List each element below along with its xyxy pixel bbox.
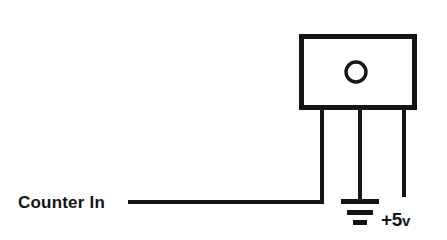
counter-in-label: Counter In — [18, 193, 105, 212]
diagram-canvas: Counter In +5v — [0, 0, 447, 240]
circuit-diagram: Counter In +5v — [0, 0, 447, 240]
supply-label: +5v — [381, 209, 411, 230]
supply-label-unit: v — [402, 212, 411, 229]
supply-label-value: +5 — [381, 209, 403, 230]
lens-circle-icon — [346, 62, 366, 82]
